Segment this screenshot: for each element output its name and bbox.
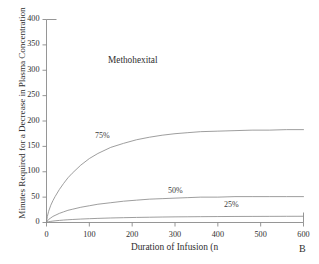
y-tick-label: 0 — [5, 217, 40, 226]
y-tick-label: 400 — [5, 14, 40, 23]
x-tick-label: 300 — [155, 230, 195, 239]
x-tick-label: 400 — [198, 230, 238, 239]
series-line-25 — [47, 216, 304, 222]
series-label-50: 50% — [168, 186, 183, 195]
x-tick-label: 0 — [27, 230, 67, 239]
y-tick-label: 150 — [5, 141, 40, 150]
y-tick-label: 300 — [5, 65, 40, 74]
series-label-75: 75% — [95, 131, 110, 140]
plot-canvas — [0, 0, 318, 264]
y-tick-label: 50 — [5, 192, 40, 201]
panel-letter: B — [299, 243, 306, 254]
x-tick-label: 500 — [241, 230, 281, 239]
series-label-25: 25% — [224, 200, 239, 209]
x-axis-label: Duration of Infusion (n — [46, 242, 303, 252]
series-line-75 — [47, 130, 304, 223]
x-tick-label: 600 — [284, 230, 319, 239]
axis-ticks — [43, 20, 304, 227]
y-tick-label: 200 — [5, 116, 40, 125]
chart-figure: Minutes Required for a Decrease in Plasm… — [0, 0, 318, 264]
x-tick-label: 200 — [112, 230, 152, 239]
plot-title: Methohexital — [108, 55, 158, 65]
x-tick-label: 100 — [69, 230, 109, 239]
y-tick-label: 250 — [5, 90, 40, 99]
y-tick-label: 100 — [5, 166, 40, 175]
y-tick-label: 350 — [5, 39, 40, 48]
